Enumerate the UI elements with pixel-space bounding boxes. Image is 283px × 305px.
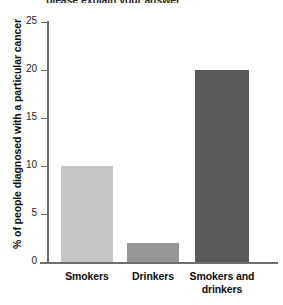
x-axis-label-line: Smokers and: [167, 270, 277, 283]
y-axis-tick-label: 20: [0, 63, 37, 74]
y-axis-tick-label: 15: [0, 111, 37, 122]
y-axis-tick-mark: [41, 166, 47, 168]
y-axis-tick-mark: [41, 118, 47, 120]
y-axis-tick-mark: [41, 22, 47, 24]
y-axis-tick-label: 5: [0, 207, 37, 218]
y-axis-tick-mark: [41, 262, 47, 264]
bar: [61, 166, 113, 262]
y-axis-tick-mark: [41, 70, 47, 72]
x-axis-label-line: drinkers: [167, 283, 277, 296]
bar: [195, 70, 249, 262]
x-axis-label: Smokers anddrinkers: [167, 270, 277, 296]
bar: [127, 243, 179, 262]
clipped-title-text: please explain your answer: [46, 0, 246, 3]
x-axis-line: [40, 262, 278, 264]
y-axis-tick-label: 10: [0, 159, 37, 170]
y-axis-tick-mark: [41, 214, 47, 216]
plot-area: [48, 22, 278, 262]
bar-chart-figure: please explain your answer % of people d…: [0, 0, 283, 305]
y-axis-tick-label: 0: [0, 255, 37, 266]
y-axis-title: % of people diagnosed with a particular …: [11, 10, 23, 258]
y-axis-tick-label: 25: [0, 15, 37, 26]
